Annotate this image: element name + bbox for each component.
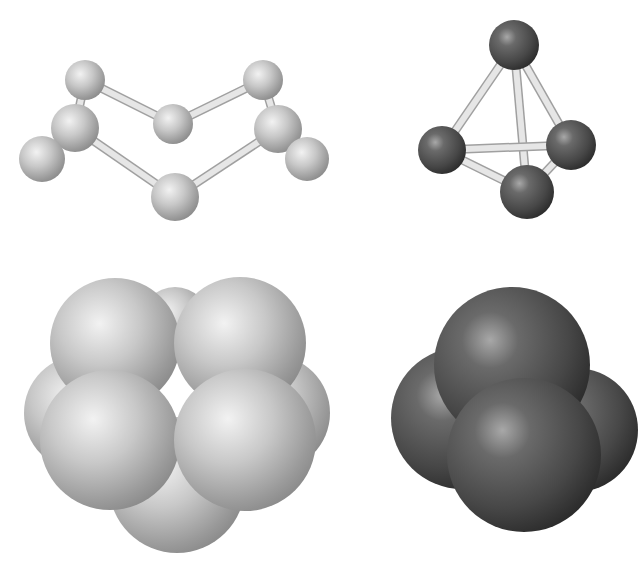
atom	[447, 378, 601, 532]
atom	[153, 104, 193, 144]
molecular-models-figure	[0, 0, 644, 582]
atom	[418, 126, 466, 174]
s8-space-filling-model	[24, 277, 330, 553]
molecule-canvas	[0, 0, 644, 582]
atom	[40, 370, 180, 510]
atom	[243, 60, 283, 100]
atom	[500, 165, 554, 219]
atom	[65, 60, 105, 100]
s8-ball-and-stick-model	[19, 60, 329, 221]
atom	[19, 136, 65, 182]
atom	[174, 369, 316, 511]
atom	[546, 120, 596, 170]
p4-ball-and-stick-model	[418, 20, 596, 219]
atom	[151, 173, 199, 221]
p4-space-filling-model	[391, 287, 638, 532]
atom	[489, 20, 539, 70]
atom	[285, 137, 329, 181]
